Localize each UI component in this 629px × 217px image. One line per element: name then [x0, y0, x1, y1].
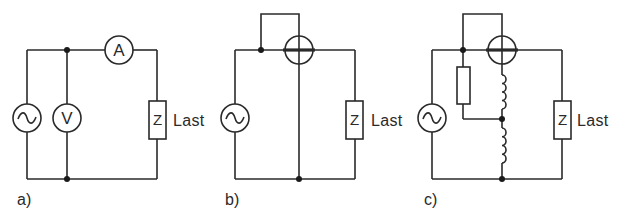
junction-dot-icon	[499, 116, 505, 122]
panel-b-label: b)	[225, 191, 239, 208]
inductor-lower-icon	[502, 128, 506, 163]
junction-dot-icon	[64, 47, 70, 53]
load-z-label: Z	[350, 111, 359, 128]
panel-c-label: c)	[424, 191, 437, 208]
wattmeter-icon	[283, 36, 315, 64]
junction-dot-icon	[258, 47, 264, 53]
junction-dot-icon	[460, 47, 466, 53]
load-impedance-icon: Z	[346, 101, 363, 139]
circuit-figure: V A Z Last a)	[0, 0, 629, 217]
resistor-icon	[457, 67, 470, 104]
ac-source-icon	[13, 104, 41, 132]
voltmeter-label: V	[61, 109, 73, 128]
panel-a-wires	[27, 50, 157, 179]
panel-a-label: a)	[17, 191, 31, 208]
ac-source-icon	[221, 104, 249, 132]
load-impedance-icon: Z	[149, 101, 166, 139]
junction-dot-icon	[499, 176, 505, 182]
ammeter-icon: A	[105, 36, 133, 64]
junction-dot-icon	[64, 176, 70, 182]
ammeter-label: A	[113, 41, 125, 60]
voltmeter-icon: V	[53, 104, 81, 132]
inductor-upper-icon	[502, 75, 506, 109]
load-last-label: Last	[577, 112, 609, 129]
panel-c: Z Last c)	[418, 14, 609, 208]
wattmeter-icon	[486, 36, 518, 64]
load-z-label: Z	[558, 111, 567, 128]
load-z-label: Z	[153, 111, 162, 128]
load-last-label: Last	[173, 112, 205, 129]
panel-a: V A Z Last a)	[13, 36, 205, 208]
ac-source-icon	[418, 104, 446, 132]
load-impedance-icon: Z	[554, 101, 571, 139]
junction-dot-icon	[296, 176, 302, 182]
load-last-label: Last	[371, 112, 403, 129]
panel-b: Z Last b)	[221, 14, 403, 208]
